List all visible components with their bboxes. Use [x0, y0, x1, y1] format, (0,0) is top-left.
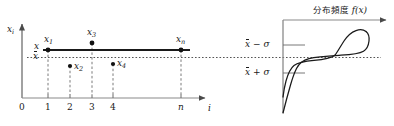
right-axes [283, 20, 386, 113]
point-label-x3: x3 [87, 28, 96, 39]
point-x1 [46, 48, 51, 53]
y-axis-label: xi [7, 25, 14, 36]
x-axis-label: i [208, 104, 211, 113]
point-x2 [68, 64, 72, 68]
statistics-figure: xi i x x x1 x2 x3 x4 xn 0 1 2 3 4 n 分布頻度… [0, 0, 394, 126]
tick-label-3: 3 [89, 103, 95, 112]
tick-label-2: 2 [67, 103, 73, 112]
tick-label-1: 1 [45, 103, 51, 112]
figure-vector-layer [0, 0, 394, 126]
sigma-tick-lines [283, 45, 305, 73]
density-curve-peak [335, 30, 366, 55]
point-label-xn: xn [176, 35, 185, 46]
point-label-x4: x4 [117, 59, 126, 70]
sigma-upper-label: x − σ [245, 40, 270, 49]
point-x4 [111, 62, 115, 66]
point-xn [179, 48, 184, 53]
point-label-x2: x2 [74, 62, 83, 73]
density-caption-jp: 分布頻度 [313, 5, 349, 15]
density-caption-function: f(x) [352, 5, 367, 15]
mean-line-label: x [33, 52, 38, 61]
density-curve-lower [283, 32, 369, 114]
tick-label-n: n [178, 103, 184, 112]
density-curve-upper [283, 55, 335, 97]
density-axis-caption: 分布頻度 f(x) [313, 6, 367, 15]
point-label-x1: x1 [44, 35, 53, 46]
point-x3 [90, 41, 95, 46]
data-points [46, 41, 184, 69]
tick-label-4: 4 [110, 103, 116, 112]
sigma-lower-label: x + σ [245, 68, 270, 77]
normal-distribution-curve [283, 30, 369, 113]
tick-label-0: 0 [19, 103, 25, 112]
